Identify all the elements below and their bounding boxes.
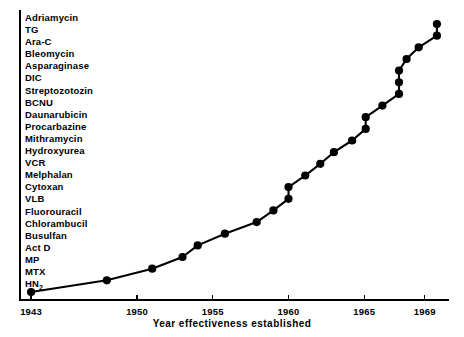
series-data-point xyxy=(395,78,403,86)
series-data-point xyxy=(415,43,423,51)
series-data-point xyxy=(348,136,356,144)
series-data-point xyxy=(178,253,186,261)
series-data-point xyxy=(301,171,309,179)
series-data-point xyxy=(433,20,441,28)
series-data-point xyxy=(253,218,261,226)
series-data-point xyxy=(269,206,277,214)
series-data-point xyxy=(395,90,403,98)
series-data-point xyxy=(103,276,111,284)
series-data-point xyxy=(221,230,229,238)
chart-container: AdriamycinTGAra-CBleomycinAsparaginaseDI… xyxy=(0,0,464,337)
series-point-group xyxy=(27,20,441,296)
series-data-point xyxy=(284,183,292,191)
data-series-plot xyxy=(0,0,464,337)
series-data-point xyxy=(362,125,370,133)
series-data-point xyxy=(194,241,202,249)
series-data-point xyxy=(148,265,156,273)
series-data-point xyxy=(433,32,441,40)
series-line-path xyxy=(31,24,437,292)
series-data-point xyxy=(27,288,35,296)
series-data-point xyxy=(362,113,370,121)
series-data-point xyxy=(395,67,403,75)
x-axis-title: Year effectiveness established xyxy=(0,318,464,329)
series-data-point xyxy=(330,148,338,156)
series-data-point xyxy=(284,195,292,203)
series-data-point xyxy=(316,160,324,168)
series-data-point xyxy=(403,55,411,63)
series-data-point xyxy=(378,102,386,110)
